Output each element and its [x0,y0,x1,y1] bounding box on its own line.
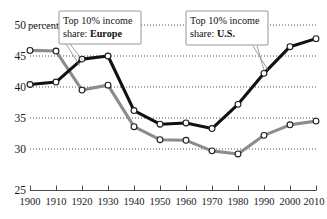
data-point-marker [235,101,241,107]
data-point-marker [287,44,293,50]
xtick-label-1950: 1950 [150,196,171,207]
data-point-marker [183,120,189,126]
us-callout-pointer [253,46,268,70]
data-point-marker [131,108,137,114]
data-point-marker [27,48,33,54]
xtick-label-1910: 1910 [46,196,67,207]
ytick-label-25: 25 [15,184,27,196]
data-point-marker [261,70,267,76]
xtick-label-2010: 2010 [304,196,325,207]
data-point-marker [287,122,293,128]
data-point-marker [209,148,215,154]
ytick-label-45: 45 [15,50,27,62]
ytick-label-35: 35 [15,112,27,124]
us-callout-line1: Top 10% income [190,15,260,26]
europe-callout-bold: Europe [90,28,123,39]
xtick-label-1960: 1960 [176,196,197,207]
europe-callout-pointer [66,44,84,66]
data-point-marker [157,121,163,127]
data-point-marker [313,118,319,124]
data-point-marker [183,137,189,143]
income-share-chart: 50 percent ... 45 40 35 30 25 [0,0,327,219]
xtick-label-1940: 1940 [124,196,145,207]
chart-svg: 50 percent ... 45 40 35 30 25 [0,0,327,219]
xtick-label-1980: 1980 [228,196,249,207]
xtick-label-1970: 1970 [202,196,223,207]
data-point-marker [313,36,319,42]
europe-callout-line1: Top 10% income [63,15,133,26]
data-point-marker [53,79,59,85]
xtick-label-1920: 1920 [72,196,93,207]
data-point-marker [131,124,137,130]
europe-callout-prefix: share: [63,28,90,39]
data-point-marker [209,126,215,132]
us-callout-line2: share: U.S. [190,28,235,39]
us-callout: Top 10% income share: U.S. [186,11,268,70]
data-point-marker [261,132,267,138]
data-point-marker [105,53,111,59]
y-axis-unit-label: percent [28,20,59,31]
data-point-marker [79,87,85,93]
xtick-label-2000: 2000 [280,196,301,207]
data-point-marker [105,82,111,88]
ytick-label-50: 50 [15,19,27,31]
xtick-label-1990: 1990 [254,196,275,207]
series-line-us [30,39,316,129]
series-us [27,36,319,132]
europe-callout-line2: share: Europe [63,28,122,39]
xtick-label-1900: 1900 [20,196,41,207]
ytick-label-40: 40 [15,81,27,93]
x-axis-labels: 1900 1910 1920 1930 1940 1950 1960 1970 … [20,196,325,207]
data-point-marker [235,151,241,157]
series-markers-us [27,36,319,132]
x-axis: 1900 1910 1920 1930 1940 1950 1960 1970 … [20,186,325,208]
ytick-label-30: 30 [15,143,27,155]
data-point-marker [27,82,33,88]
us-callout-bold: U.S. [217,28,236,39]
data-point-marker [157,137,163,143]
xtick-label-1930: 1930 [98,196,119,207]
x-axis-tickmarks [31,186,317,191]
data-point-marker [53,48,59,54]
us-callout-prefix: share: [190,28,217,39]
